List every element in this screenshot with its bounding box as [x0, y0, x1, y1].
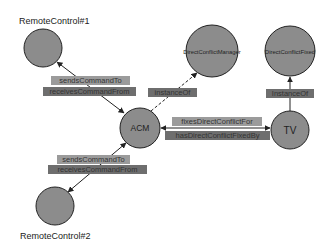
edge-label-has-direct-conflict-fixed-by: hasDirectConflictFixedBy: [165, 131, 270, 140]
node-direct-conflict-fixed[interactable]: DirectConflictFixed: [265, 26, 315, 76]
node-label: ACM: [131, 123, 150, 133]
node-label: RemoteControl#1: [19, 16, 90, 26]
node-tv[interactable]: TV: [271, 111, 309, 149]
svg-text:receivesCommandFrom: receivesCommandFrom: [49, 87, 129, 96]
edge-label-receives-command-from-2: receivesCommandFrom: [48, 165, 147, 174]
svg-text:fixesDirectConflictFor: fixesDirectConflictFor: [181, 117, 253, 126]
node-remote-control-2[interactable]: RemoteControl#2: [20, 187, 91, 241]
edge-label-sends-command-to-1: sendsCommandTo: [51, 76, 130, 85]
edge-label-receives-command-from-1: receivesCommandFrom: [43, 87, 136, 96]
svg-text:sendsCommandTo: sendsCommandTo: [62, 155, 125, 164]
edge-label-sends-command-to-2: sendsCommandTo: [57, 155, 130, 164]
node-remote-control-1[interactable]: RemoteControl#1: [19, 16, 90, 67]
svg-text:instanceOf: instanceOf: [155, 88, 192, 97]
edge-label-fixes-direct-conflict-for: fixesDirectConflictFor: [172, 117, 262, 126]
node-direct-conflict-manager[interactable]: DirectConflictManager: [183, 25, 240, 77]
node-label: DirectConflictManager: [183, 49, 240, 55]
node-acm[interactable]: ACM: [120, 108, 160, 148]
edge-label-instance-of-acm: instanceOf: [148, 88, 197, 97]
svg-text:sendsCommandTo: sendsCommandTo: [59, 76, 122, 85]
svg-text:receivesCommandFrom: receivesCommandFrom: [57, 165, 137, 174]
diagram-canvas: RemoteControl#1 DirectConflictManager Di…: [0, 0, 331, 248]
node-label: TV: [284, 125, 297, 136]
node-label: DirectConflictFixed: [265, 49, 315, 55]
node-label: RemoteControl#2: [20, 231, 91, 241]
svg-text:hasDirectConflictFixedBy: hasDirectConflictFixedBy: [176, 131, 260, 140]
svg-text:InstanceOf: InstanceOf: [272, 89, 309, 98]
edge-label-instance-of-tv: InstanceOf: [266, 89, 314, 98]
